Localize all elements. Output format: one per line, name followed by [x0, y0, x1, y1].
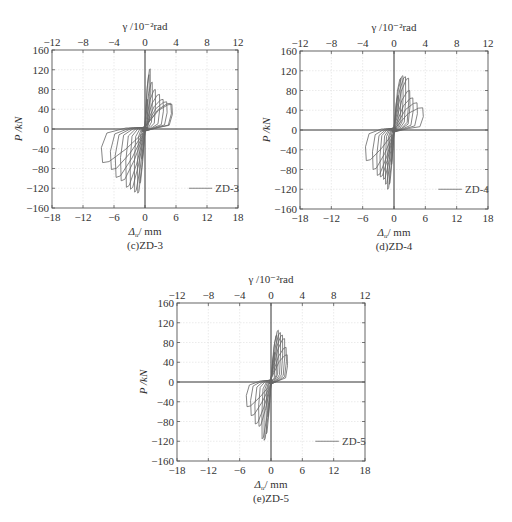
x-axis-unit: / mm — [265, 478, 288, 490]
x-tick-label: −6 — [108, 211, 120, 223]
x-axis-unit: / mm — [139, 225, 162, 237]
top-tick-label: −4 — [108, 36, 120, 48]
x-tick-label: 18 — [233, 211, 245, 223]
top-tick-label: −8 — [202, 289, 214, 301]
panel-caption: (c)ZD-3 — [127, 239, 164, 252]
legend-label: ZD-3 — [215, 182, 239, 194]
hysteresis-loop-9 — [110, 103, 171, 169]
top-tick-label: 8 — [454, 37, 460, 49]
y-tick-label: −80 — [157, 416, 175, 428]
x-tick-label: 6 — [173, 211, 179, 223]
x-axis-unit: / mm — [388, 226, 411, 238]
y-tick-label: −40 — [280, 144, 298, 156]
x-axis-symbol: Δ — [254, 478, 261, 490]
top-tick-label: 0 — [391, 37, 397, 49]
x-axis-title: Δu/ mm — [254, 478, 288, 492]
top-tick-label: −4 — [234, 289, 246, 301]
top-tick-label: −8 — [325, 37, 337, 49]
x-tick-label: 12 — [202, 211, 213, 223]
x-tick-label: −12 — [323, 212, 340, 224]
legend-label: ZD-5 — [342, 435, 366, 447]
y-tick-label: −160 — [274, 203, 297, 215]
y-tick-label: −120 — [26, 182, 49, 194]
y-tick-label: −40 — [32, 143, 50, 155]
x-axis-symbol: Δ — [377, 226, 384, 238]
y-tick-label: −160 — [26, 202, 49, 214]
x-tick-label: −12 — [74, 211, 91, 223]
y-tick-label: −120 — [151, 435, 174, 447]
top-axis-title: γ /10⁻²rad — [247, 273, 294, 285]
x-tick-label: 12 — [328, 464, 339, 476]
y-tick-label: 160 — [281, 45, 298, 57]
figure: −18−12−6061218−12−8−40481216012080400−40… — [0, 0, 512, 522]
panel-zd3: −18−12−6061218−12−8−40481216012080400−40… — [12, 20, 244, 252]
y-tick-label: −120 — [274, 183, 297, 195]
x-axis-symbol: Δ — [128, 225, 135, 237]
top-tick-label: 8 — [331, 289, 337, 301]
y-tick-label: 120 — [33, 64, 50, 76]
y-tick-label: 120 — [281, 65, 298, 77]
y-tick-label: 80 — [286, 85, 298, 97]
top-tick-label: 4 — [173, 36, 179, 48]
x-tick-label: 18 — [483, 212, 495, 224]
top-tick-label: 12 — [360, 289, 371, 301]
top-axis-title: γ /10⁻²rad — [370, 21, 417, 33]
panel-caption: (e)ZD-5 — [253, 492, 290, 505]
x-tick-label: 12 — [451, 212, 462, 224]
x-axis-title: Δu/ mm — [128, 225, 162, 239]
y-tick-label: 40 — [38, 103, 50, 115]
top-axis-title: γ /10⁻²rad — [121, 20, 168, 32]
x-tick-label: −6 — [234, 464, 246, 476]
x-tick-label: −12 — [200, 464, 217, 476]
y-tick-label: 80 — [38, 84, 50, 96]
x-tick-label: 0 — [268, 464, 274, 476]
y-axis-title: P /kN — [137, 369, 149, 395]
panel-zd4: −18−12−6061218−12−8−40481216012080400−40… — [260, 21, 494, 253]
panel-zd5: −18−12−6061218−12−8−40481216012080400−40… — [137, 273, 371, 505]
legend-label: ZD-4 — [465, 183, 489, 195]
top-tick-label: 8 — [204, 36, 210, 48]
hysteresis-curves — [101, 69, 172, 193]
y-tick-label: 160 — [158, 297, 175, 309]
top-tick-label: 0 — [268, 289, 274, 301]
top-tick-label: 0 — [142, 36, 148, 48]
top-tick-label: 4 — [423, 37, 429, 49]
x-tick-label: 6 — [423, 212, 429, 224]
panel-caption: (d)ZD-4 — [376, 240, 413, 253]
x-tick-label: 0 — [391, 212, 397, 224]
y-tick-label: 0 — [292, 124, 298, 136]
top-tick-label: 4 — [300, 289, 306, 301]
y-tick-label: −160 — [151, 455, 174, 467]
x-axis-title: Δu/ mm — [377, 226, 411, 240]
y-tick-label: 160 — [33, 44, 50, 56]
top-tick-label: 12 — [483, 37, 494, 49]
y-tick-label: −40 — [157, 396, 175, 408]
y-tick-label: 0 — [44, 123, 50, 135]
y-axis-title: P /kN — [12, 116, 24, 142]
top-tick-label: −8 — [77, 36, 89, 48]
x-tick-label: 18 — [360, 464, 372, 476]
hysteresis-loop-6 — [126, 94, 160, 187]
x-tick-label: 6 — [300, 464, 306, 476]
y-tick-label: 0 — [169, 376, 175, 388]
y-tick-label: −80 — [280, 164, 298, 176]
hysteresis-curves — [246, 330, 287, 440]
top-tick-label: 12 — [233, 36, 244, 48]
top-tick-label: −4 — [357, 37, 369, 49]
y-tick-label: 80 — [163, 337, 175, 349]
x-tick-label: 0 — [142, 211, 148, 223]
y-tick-label: −80 — [32, 163, 50, 175]
y-tick-label: 40 — [286, 104, 298, 116]
y-tick-label: 120 — [158, 317, 175, 329]
y-tick-label: 40 — [163, 356, 175, 368]
y-axis-title: P /kN — [260, 117, 272, 143]
x-tick-label: −6 — [357, 212, 369, 224]
